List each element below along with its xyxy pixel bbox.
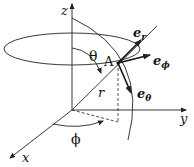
phi-arc — [53, 121, 103, 126]
ephi-label: eϕ — [153, 53, 170, 70]
er-label: er — [133, 25, 147, 42]
point-a — [116, 61, 119, 64]
x-axis — [10, 110, 72, 158]
phi-label: ϕ — [71, 131, 81, 147]
theta-label: θ — [89, 48, 97, 64]
radius-label: r — [98, 85, 105, 100]
z-axis-label: z — [60, 3, 68, 18]
projection-horizontal — [72, 110, 118, 122]
spherical-coordinates-diagram: z y x A r θ ϕ er eϕ eθ — [0, 0, 194, 167]
x-axis-label: x — [22, 150, 30, 165]
etheta-label: eθ — [137, 86, 151, 103]
point-a-label: A — [103, 54, 114, 69]
y-axis-label: y — [179, 111, 188, 126]
